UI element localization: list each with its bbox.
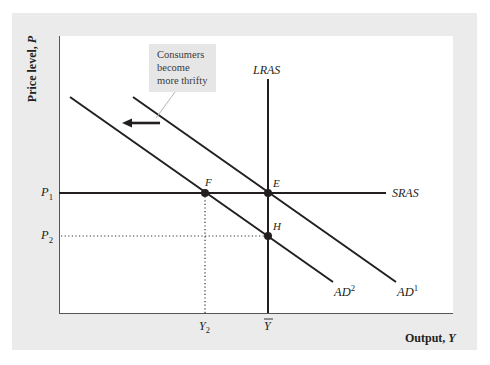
point-f-label: F [205, 177, 212, 188]
ad1-label-base: AD [397, 285, 414, 299]
callout-line-1: Consumers [157, 48, 216, 61]
point-f-dot [201, 189, 209, 197]
sras-label: SRAS [392, 187, 419, 199]
x-axis-title-text: Output, [405, 331, 448, 345]
y-axis-title-var: P [25, 36, 39, 43]
p2-base: P [41, 228, 49, 242]
callout-line-3: more thrifty [157, 74, 216, 87]
y2-base: Y [199, 319, 206, 333]
p2-sub: 2 [49, 235, 53, 245]
point-h-dot [264, 232, 272, 240]
y-axis-title-text: Price level, [25, 43, 39, 102]
y2-tick-label: Y2 [199, 320, 210, 332]
x-axis-title: Output, Y [405, 332, 456, 344]
ad2-label-sup: 2 [351, 283, 355, 293]
point-e-label: E [273, 178, 280, 189]
p1-tick-label: P1 [41, 186, 53, 199]
point-e-dot [264, 189, 272, 197]
diagram-canvas [0, 0, 490, 365]
lras-label: LRAS [253, 64, 280, 76]
callout-leader-line [156, 92, 175, 118]
x-axis-title-var: Y [448, 331, 455, 345]
p1-base: P [41, 185, 49, 199]
ybar-tick-label: Y [264, 320, 271, 332]
p2-tick-label: P2 [41, 229, 53, 242]
p1-sub: 1 [49, 192, 53, 202]
callout-line-2: become [157, 61, 216, 74]
point-h-label: H [273, 221, 281, 232]
ad2-label: AD2 [334, 286, 355, 299]
ad1-label: AD1 [397, 286, 418, 299]
y-axis-title: Price level, P [25, 38, 39, 100]
ad2-line [70, 97, 333, 282]
callout-consumers-thrifty: Consumers become more thrifty [149, 44, 216, 92]
ad1-line [133, 97, 396, 282]
y2-sub: 2 [206, 326, 210, 335]
left-shift-arrow-icon [122, 119, 160, 128]
ad1-label-sup: 1 [414, 283, 418, 293]
ad2-label-base: AD [334, 285, 351, 299]
